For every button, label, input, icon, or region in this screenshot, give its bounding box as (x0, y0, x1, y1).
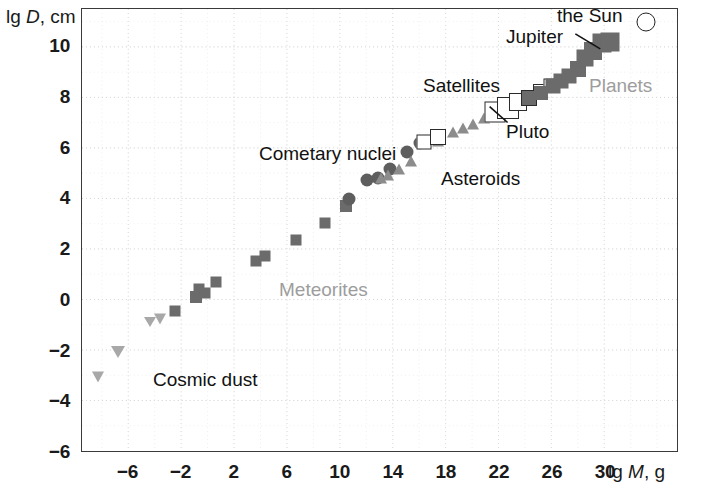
scatter-chart-figure: lg D, cm lg M, g 1086420−2−4−6 −6−226101… (0, 0, 702, 493)
x-axis-title-symbol: M (628, 461, 644, 482)
x-axis-tick-label: −6 (117, 461, 138, 483)
annotation-jupiter: Jupiter (506, 26, 563, 48)
x-axis-tick-label: 2 (228, 461, 238, 483)
y-axis-tick-label: 0 (18, 289, 70, 311)
x-axis-tick-label: 22 (489, 461, 510, 483)
annotation-asteroids: Asteroids (441, 168, 520, 190)
y-axis-title: lg D, cm (6, 6, 76, 28)
annotation-planets: Planets (589, 75, 652, 97)
y-axis-tick-label: 10 (18, 35, 70, 57)
pluto-leader-line (490, 107, 508, 123)
x-axis-tick-label: 10 (329, 461, 350, 483)
y-axis-tick-label: 4 (18, 187, 70, 209)
x-axis-tick-label: 6 (281, 461, 291, 483)
y-axis-tick-label: 8 (18, 86, 70, 108)
y-axis-tick-label: −4 (18, 390, 70, 412)
jupiter-leader-line (575, 34, 600, 49)
y-axis-title-suffix: , cm (40, 6, 76, 27)
plot-area: the SunJupiterSatellitesPlanetsPlutoCome… (81, 8, 678, 452)
y-axis-tick-label: 6 (18, 137, 70, 159)
x-axis-tick-label: 26 (542, 461, 563, 483)
y-axis-title-symbol: D (26, 6, 40, 27)
x-axis-tick-label: 14 (382, 461, 403, 483)
annotation-pluto: Pluto (506, 121, 549, 143)
y-axis-title-prefix: lg (6, 6, 26, 27)
y-axis-tick-label: −6 (18, 441, 70, 463)
x-axis-title-suffix: , g (644, 461, 665, 482)
annotation-the-sun: the Sun (557, 5, 623, 27)
annotation-meteorites: Meteorites (279, 279, 368, 301)
y-axis-tick-label: 2 (18, 238, 70, 260)
x-axis-tick-label: 18 (435, 461, 456, 483)
x-axis-title: lg M, g (608, 461, 665, 483)
annotation-satellites: Satellites (423, 75, 500, 97)
x-axis-tick-label: −2 (170, 461, 191, 483)
x-axis-tick-label: 30 (595, 461, 616, 483)
annotation-cosmic-dust: Cosmic dust (153, 369, 258, 391)
y-axis-tick-label: −2 (18, 340, 70, 362)
annotation-cometary-nuclei: Cometary nuclei (259, 143, 396, 165)
